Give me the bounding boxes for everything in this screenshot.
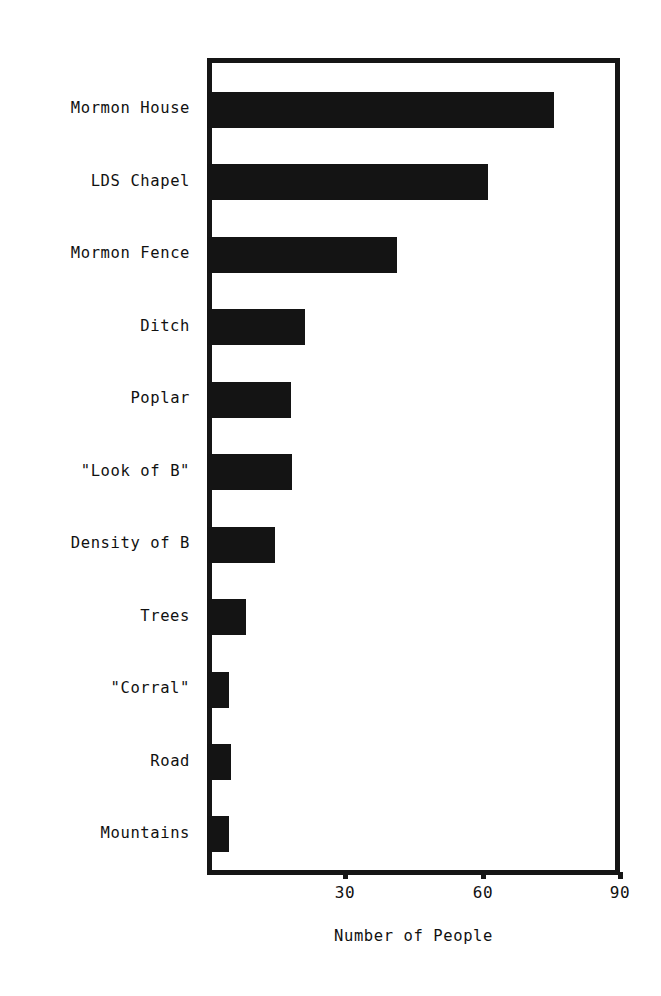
category-label-look-of-b: "Look of B" [0, 464, 190, 480]
category-label-mountains: Mountains [0, 826, 190, 842]
category-label-poplar: Poplar [0, 391, 190, 407]
bar-lds-chapel [207, 164, 488, 200]
bar-mountains [207, 816, 229, 852]
bar-ditch [207, 309, 305, 345]
bar-poplar [207, 382, 291, 418]
category-label-road: Road [0, 754, 190, 770]
bars-layer [207, 58, 620, 875]
category-label-density-of-b: Density of B [0, 536, 190, 552]
bar-mormon-fence [207, 237, 397, 273]
category-label-lds-chapel: LDS Chapel [0, 174, 190, 190]
bar-corral [207, 672, 229, 708]
xtick-mark-90 [618, 872, 623, 879]
category-label-trees: Trees [0, 609, 190, 625]
bar-look-of-b [207, 454, 292, 490]
category-label-mormon-house: Mormon House [0, 101, 190, 117]
bar-chart: Mormon House LDS Chapel Mormon Fence Dit… [0, 0, 661, 996]
category-label-mormon-fence: Mormon Fence [0, 246, 190, 262]
xtick-label-90: 90 [610, 883, 630, 902]
bar-trees [207, 599, 246, 635]
bar-density-of-b [207, 527, 275, 563]
bar-mormon-house [207, 92, 554, 128]
xtick-label-60: 60 [473, 883, 493, 902]
x-axis-title: Number of People [207, 927, 620, 945]
xtick-mark-60 [481, 872, 486, 879]
category-label-ditch: Ditch [0, 319, 190, 335]
bar-road [207, 744, 231, 780]
xtick-label-30: 30 [335, 883, 355, 902]
xtick-mark-30 [343, 872, 348, 879]
category-label-corral: "Corral" [0, 681, 190, 697]
